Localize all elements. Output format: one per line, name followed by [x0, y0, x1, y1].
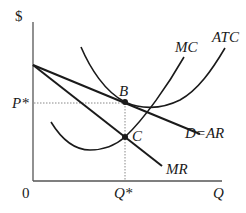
average-total-cost-curve: [81, 47, 225, 107]
point-b-marker: [122, 99, 128, 105]
mc-label: MC: [174, 39, 198, 55]
quantity-tick-label: Q*: [114, 185, 133, 201]
price-tick-label: P*: [11, 95, 29, 111]
point-b-label: B: [119, 83, 128, 99]
demand-curve: [33, 65, 200, 134]
x-axis-label: Q: [213, 185, 224, 201]
demand-label: D=AR: [184, 125, 224, 141]
origin-label: 0: [22, 185, 30, 201]
marginal-revenue-curve: [33, 65, 162, 166]
atc-label: ATC: [211, 29, 240, 45]
point-c-label: C: [132, 128, 143, 144]
mr-label: MR: [165, 161, 188, 177]
monopoly-diagram: $ P* 0 Q* Q MC ATC D=AR MR B C: [0, 0, 246, 213]
y-axis-label: $: [15, 8, 23, 24]
point-c-marker: [122, 134, 128, 140]
